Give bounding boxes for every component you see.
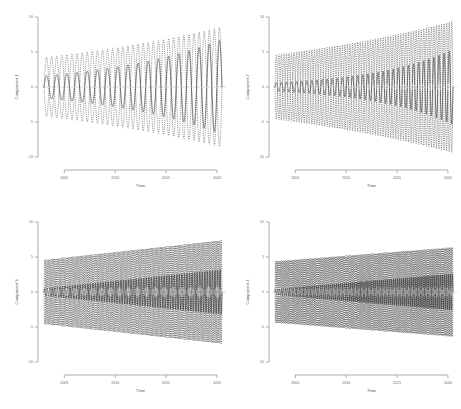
y-tick-label: 5 <box>262 50 264 54</box>
x-tick-label: 2005 <box>60 381 68 385</box>
panel-component-4: -10-50510Component 42005201020152020Time <box>231 205 461 409</box>
x-tick-label: 2020 <box>213 381 221 385</box>
y-tick-label: -10 <box>259 360 264 364</box>
x-axis-title: Time <box>136 183 146 188</box>
y-axis-title: Component 3 <box>14 279 19 305</box>
x-axis: 2005201020152020 <box>60 375 221 385</box>
y-tick-label: 10 <box>29 15 33 19</box>
y-tick-label: -5 <box>30 325 33 329</box>
panel-component-1: -10-50510Component 12005201020152020Time <box>0 0 230 204</box>
y-tick-label: 0 <box>31 85 33 89</box>
y-tick-label: -5 <box>30 120 33 124</box>
y-tick-label: -5 <box>261 120 264 124</box>
x-tick-label: 2015 <box>393 176 401 180</box>
panel4-upper-band <box>275 247 453 292</box>
y-tick-label: -10 <box>28 155 33 159</box>
y-tick-label: 0 <box>31 290 33 294</box>
x-tick-label: 2010 <box>111 176 119 180</box>
y-tick-label: 10 <box>260 15 264 19</box>
panel2-plot: -10-50510Component 22005201020152020Time <box>231 0 461 204</box>
x-axis-title: Time <box>367 183 377 188</box>
y-tick-label: -5 <box>261 325 264 329</box>
panel4-lower-band <box>275 292 453 337</box>
x-tick-label: 2005 <box>291 176 299 180</box>
x-tick-label: 2005 <box>60 176 68 180</box>
panel2-upper-band <box>275 22 453 87</box>
y-tick-label: 10 <box>260 220 264 224</box>
x-axis-title: Time <box>367 388 377 393</box>
panel1-upper-band <box>44 27 222 87</box>
x-axis: 2005201020152020 <box>60 170 221 180</box>
y-axis-title: Component 2 <box>245 74 250 100</box>
y-tick-label: 5 <box>31 50 33 54</box>
x-tick-label: 2005 <box>291 381 299 385</box>
x-tick-label: 2020 <box>444 176 452 180</box>
figure-canvas: -10-50510Component 12005201020152020Time… <box>0 0 461 409</box>
x-axis: 2005201020152020 <box>291 375 452 385</box>
x-tick-label: 2010 <box>111 381 119 385</box>
x-tick-label: 2020 <box>444 381 452 385</box>
y-axis: -10-50510 <box>259 15 269 159</box>
x-tick-label: 2010 <box>342 381 350 385</box>
y-tick-label: 10 <box>29 220 33 224</box>
y-axis: -10-50510 <box>259 220 269 364</box>
y-axis-title: Component 1 <box>14 74 19 100</box>
y-tick-label: 0 <box>262 85 264 89</box>
y-tick-label: 0 <box>262 290 264 294</box>
y-tick-label: 5 <box>262 255 264 259</box>
x-tick-label: 2015 <box>162 176 170 180</box>
y-axis: -10-50510 <box>28 15 38 159</box>
panel-component-2: -10-50510Component 22005201020152020Time <box>231 0 461 204</box>
y-axis-title: Component 4 <box>245 279 250 305</box>
x-tick-label: 2020 <box>213 176 221 180</box>
y-tick-label: 5 <box>31 255 33 259</box>
y-axis: -10-50510 <box>28 220 38 364</box>
x-tick-label: 2015 <box>393 381 401 385</box>
panel2-lower-band <box>275 87 453 152</box>
x-tick-label: 2010 <box>342 176 350 180</box>
x-axis: 2005201020152020 <box>291 170 452 180</box>
x-axis-title: Time <box>136 388 146 393</box>
panel1-plot: -10-50510Component 12005201020152020Time <box>0 0 230 204</box>
y-tick-label: -10 <box>259 155 264 159</box>
y-tick-label: -10 <box>28 360 33 364</box>
x-tick-label: 2015 <box>162 381 170 385</box>
panel-component-3: -10-50510Component 32005201020152020Time <box>0 205 230 409</box>
panel3-plot: -10-50510Component 32005201020152020Time <box>0 205 230 409</box>
panel4-plot: -10-50510Component 42005201020152020Time <box>231 205 461 409</box>
